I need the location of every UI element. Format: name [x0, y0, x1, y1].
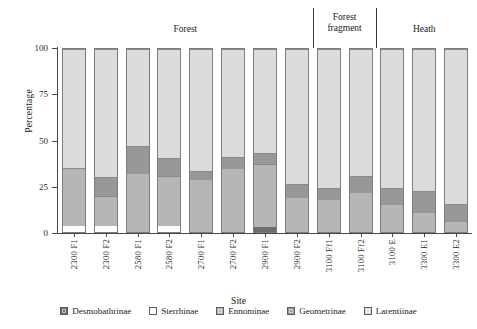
bar-segment-geometrinae: [318, 188, 340, 201]
x-axis-tick-label: 2900 F2: [292, 239, 302, 269]
y-axis-title: Percentage: [24, 51, 34, 171]
bar-3300-e1[interactable]: [412, 48, 436, 233]
plot-area: [58, 48, 472, 233]
y-axis-tick: [52, 141, 57, 142]
bar-segment-geometrinae: [381, 188, 403, 205]
x-axis-tick: [138, 233, 139, 237]
bar-segment-ennominae: [381, 205, 403, 232]
bar-segment-larentiinae: [190, 49, 212, 171]
x-axis-tick: [329, 233, 330, 237]
x-axis-tick: [424, 233, 425, 237]
legend-item-desmobathrinae[interactable]: Desmobathrinae: [60, 306, 131, 316]
bar-segment-ennominae: [254, 164, 276, 226]
bar-3100-e[interactable]: [380, 48, 404, 233]
bar-3300-e2[interactable]: [444, 48, 468, 233]
x-axis-tick-label: 2580 F1: [133, 239, 143, 269]
bar-segment-larentiinae: [350, 49, 372, 176]
bar-segment-geometrinae: [158, 158, 180, 176]
x-axis-tick: [297, 233, 298, 237]
bar-segment-ennominae: [318, 200, 340, 232]
bar-segment-geometrinae: [254, 153, 276, 165]
x-axis-tick-label: 2900 F1: [260, 239, 270, 269]
group-label-forest: Forest: [140, 24, 230, 35]
y-axis-tick-label: 75: [0, 89, 48, 99]
bar-segment-ennominae: [190, 180, 212, 232]
legend-item-geometrinae[interactable]: Geometrinae: [287, 306, 345, 316]
bar-segment-larentiinae: [95, 49, 117, 177]
bar-segment-ennominae: [350, 193, 372, 232]
bar-2900-f2[interactable]: [285, 48, 309, 233]
bar-2900-f1[interactable]: [253, 48, 277, 233]
y-axis-tick: [52, 94, 57, 95]
bar-segment-geometrinae: [222, 157, 244, 169]
bar-segment-sterrhinae: [158, 226, 180, 232]
legend-label: Larentiinae: [376, 306, 417, 316]
bar-2300-f2[interactable]: [94, 48, 118, 233]
x-axis-tick: [361, 233, 362, 237]
legend-item-ennominae[interactable]: Ennominae: [216, 306, 269, 316]
bar-segment-ennominae: [286, 198, 308, 232]
x-axis-title: Site: [0, 296, 477, 306]
x-axis-tick: [74, 233, 75, 237]
legend-label: Sterrhinae: [161, 306, 198, 316]
bar-segment-larentiinae: [445, 49, 467, 204]
bar-segment-ennominae: [95, 196, 117, 226]
y-axis-tick: [52, 233, 57, 234]
x-axis-tick: [201, 233, 202, 237]
y-axis-tick-label: 25: [0, 182, 48, 192]
bar-segment-desmobathrinae: [254, 227, 276, 232]
y-axis-tick-label: 50: [0, 136, 48, 146]
bar-segment-larentiinae: [413, 49, 435, 191]
y-axis-tick: [52, 187, 57, 188]
legend-item-larentiinae[interactable]: Larentiinae: [364, 306, 417, 316]
bar-segment-larentiinae: [158, 49, 180, 158]
bar-segment-larentiinae: [127, 49, 149, 146]
x-axis-tick-label: 2700 F1: [196, 239, 206, 269]
bar-2300-f1[interactable]: [62, 48, 86, 233]
bar-2700-f1[interactable]: [189, 48, 213, 233]
x-axis-tick: [169, 233, 170, 237]
legend-swatch-icon: [60, 307, 68, 315]
x-axis-tick-label: 2300 F2: [101, 239, 111, 269]
bar-segment-ennominae: [222, 169, 244, 232]
group-separator: [376, 8, 377, 48]
x-axis-tick-label: 2300 F1: [69, 239, 79, 269]
legend-swatch-icon: [287, 307, 295, 315]
bar-segment-geometrinae: [95, 177, 117, 196]
bar-segment-larentiinae: [318, 49, 340, 188]
bar-segment-ennominae: [413, 213, 435, 232]
x-axis-tick: [106, 233, 107, 237]
x-axis-tick-label: 3300 E2: [451, 239, 461, 270]
bar-2580-f1[interactable]: [126, 48, 150, 233]
x-axis-tick: [392, 233, 393, 237]
bar-3100-ff2[interactable]: [349, 48, 373, 233]
y-axis-tick: [52, 48, 57, 49]
legend-swatch-icon: [216, 307, 224, 315]
bar-segment-geometrinae: [286, 184, 308, 198]
bar-segment-ennominae: [445, 222, 467, 232]
bar-2700-f2[interactable]: [221, 48, 245, 233]
bar-segment-sterrhinae: [63, 226, 85, 232]
bar-segment-geometrinae: [445, 204, 467, 222]
legend-item-sterrhinae[interactable]: Sterrhinae: [149, 306, 198, 316]
bar-segment-geometrinae: [190, 171, 212, 179]
x-axis-tick-label: 2580 F2: [164, 239, 174, 269]
legend-label: Geometrinae: [299, 306, 345, 316]
bar-segment-ennominae: [127, 174, 149, 232]
y-axis-tick-label: 0: [0, 228, 48, 238]
x-axis-tick-label: 3100 Ff1: [324, 239, 334, 272]
bar-segment-geometrinae: [350, 176, 372, 193]
bar-segment-ennominae: [158, 176, 180, 226]
bar-segment-geometrinae: [127, 146, 149, 174]
bar-segment-geometrinae: [413, 191, 435, 213]
x-axis-tick-label: 2700 F2: [228, 239, 238, 269]
bar-segment-ennominae: [63, 168, 85, 226]
x-axis-tick: [233, 233, 234, 237]
y-axis-tick-label: 100: [0, 43, 48, 53]
x-axis-tick-label: 3100 Ff2: [356, 239, 366, 272]
bar-segment-larentiinae: [254, 49, 276, 153]
x-axis-tick: [265, 233, 266, 237]
bar-3100-ff1[interactable]: [317, 48, 341, 233]
bar-2580-f2[interactable]: [157, 48, 181, 233]
bar-segment-larentiinae: [286, 49, 308, 184]
